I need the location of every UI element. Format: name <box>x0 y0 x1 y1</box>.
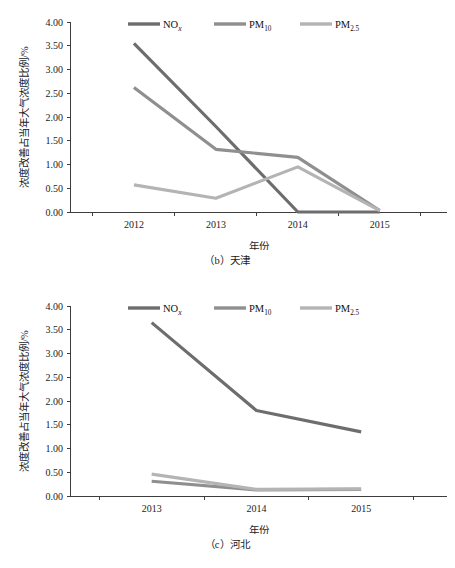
series-line-PM2.5 <box>152 474 361 489</box>
y-tick-label: 4.00 <box>46 17 64 28</box>
x-axis-title: 年份 <box>249 524 270 534</box>
figure-b-tianjin: NOxPM10PM2.50.000.501.001.502.002.503.00… <box>0 0 455 284</box>
x-tick-label: 2015 <box>370 219 390 230</box>
x-tick-label: 2012 <box>124 219 144 230</box>
x-tick-label: 2013 <box>206 219 226 230</box>
x-tick-label: 2015 <box>351 503 371 514</box>
figure-c-hebei: NOxPM10PM2.50.000.501.001.502.002.503.00… <box>0 284 455 568</box>
x-axis-title: 年份 <box>249 240 270 250</box>
y-tick-label: 1.50 <box>46 419 64 430</box>
y-axis-title: 浓度改善占当年大气浓度比例/% <box>18 330 30 472</box>
y-tick-label: 0.00 <box>46 491 64 502</box>
y-tick-label: 3.50 <box>46 324 64 335</box>
legend-label-PM2.5: PM2.5 <box>335 303 360 317</box>
legend-label-PM10: PM10 <box>249 19 272 33</box>
y-tick-label: 0.50 <box>46 183 64 194</box>
legend-label-NOx: NOx <box>163 303 182 317</box>
line-chart-tianjin: NOxPM10PM2.50.000.501.001.502.002.503.00… <box>0 0 455 250</box>
y-tick-label: 0.50 <box>46 467 64 478</box>
y-tick-label: 1.00 <box>46 443 64 454</box>
y-tick-label: 3.00 <box>46 64 64 75</box>
x-tick-label: 2013 <box>142 503 162 514</box>
legend-label-PM10: PM10 <box>249 303 272 317</box>
y-tick-label: 2.00 <box>46 112 64 123</box>
x-tick-label: 2014 <box>246 503 266 514</box>
figure-c-caption: （c）河北 <box>0 536 455 551</box>
y-tick-label: 1.50 <box>46 135 64 146</box>
y-tick-label: 2.50 <box>46 372 64 383</box>
y-tick-label: 3.50 <box>46 40 64 51</box>
series-line-NOx <box>152 323 361 432</box>
x-tick-label: 2014 <box>288 219 308 230</box>
y-tick-label: 2.00 <box>46 396 64 407</box>
line-chart-hebei: NOxPM10PM2.50.000.501.001.502.002.503.00… <box>0 284 455 534</box>
y-tick-label: 2.50 <box>46 88 64 99</box>
y-tick-label: 0.00 <box>46 207 64 218</box>
y-tick-label: 1.00 <box>46 159 64 170</box>
legend-label-NOx: NOx <box>163 19 182 33</box>
y-tick-label: 3.00 <box>46 348 64 359</box>
y-axis-title: 浓度改善占当年大气浓度比例/% <box>18 46 30 188</box>
series-line-PM2.5 <box>134 167 380 211</box>
y-tick-label: 4.00 <box>46 301 64 312</box>
legend-label-PM2.5: PM2.5 <box>335 19 360 33</box>
figure-b-caption: （b）天津 <box>0 252 455 267</box>
